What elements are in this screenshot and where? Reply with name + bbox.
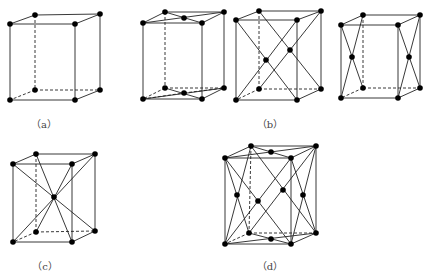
corner-atom: [313, 143, 319, 149]
corner-atom: [199, 96, 205, 102]
corner-atom: [221, 85, 227, 91]
corner-atom: [288, 241, 294, 247]
corner-atom: [97, 11, 103, 17]
corner-atom: [222, 155, 228, 161]
center-atom: [268, 149, 274, 155]
corner-atom: [92, 151, 98, 157]
corner-atom: [97, 87, 103, 93]
corner-atom: [313, 230, 319, 236]
corner-atom: [338, 22, 344, 28]
corner-atom: [360, 85, 366, 91]
corner-atom: [318, 8, 324, 14]
center-atom: [181, 90, 187, 96]
corner-atom: [248, 143, 254, 149]
cell-edge: [13, 154, 36, 164]
corner-atom: [162, 85, 168, 91]
hidden-edge: [10, 90, 35, 100]
center-atom: [300, 192, 306, 198]
cell-edge: [236, 11, 259, 20]
corner-atom: [417, 12, 423, 18]
corner-atom: [222, 241, 228, 247]
cell-edge: [72, 154, 95, 164]
hidden-edge: [341, 88, 363, 98]
corner-atom: [10, 239, 16, 245]
center-atom: [51, 194, 57, 200]
corner-atom: [233, 17, 239, 23]
figure-label-d: （d）: [257, 258, 283, 273]
corner-atom: [7, 21, 13, 27]
corner-atom: [338, 95, 344, 101]
cell-edge: [75, 90, 100, 100]
corner-atom: [72, 97, 78, 103]
center-atom: [280, 187, 286, 193]
corner-atom: [32, 87, 38, 93]
corner-atom: [10, 161, 16, 167]
hidden-edge: [236, 89, 259, 100]
corner-atom: [69, 239, 75, 245]
cell-edge: [35, 14, 100, 15]
corner-atom: [233, 97, 239, 103]
center-atom: [263, 57, 269, 63]
figure-label-b: （b）: [257, 116, 283, 131]
lattice-diagram: [0, 0, 428, 280]
corner-atom: [33, 151, 39, 157]
cell-edge: [341, 15, 363, 25]
corner-atom: [162, 9, 168, 15]
corner-atom: [140, 20, 146, 26]
cell-edge: [398, 15, 420, 25]
center-atom: [287, 47, 293, 53]
cell-edge: [297, 89, 321, 100]
cell-edge: [10, 15, 35, 24]
corner-atom: [246, 230, 252, 236]
figure-label-c: （c）: [32, 258, 58, 273]
cell-edge: [398, 88, 420, 98]
corner-atom: [72, 21, 78, 27]
center-atom: [406, 54, 412, 60]
figure-label-a: （a）: [31, 116, 57, 131]
cell-edge: [75, 14, 100, 24]
corner-atom: [417, 85, 423, 91]
corner-atom: [221, 9, 227, 15]
corner-atom: [69, 161, 75, 167]
corner-atom: [395, 95, 401, 101]
hidden-edge: [36, 231, 95, 232]
center-atom: [234, 192, 240, 198]
corner-atom: [32, 12, 38, 18]
center-atom: [349, 54, 355, 60]
corner-atom: [288, 155, 294, 161]
hidden-edge: [13, 232, 36, 242]
corner-atom: [360, 12, 366, 18]
corner-atom: [294, 17, 300, 23]
corner-atom: [7, 97, 13, 103]
corner-atom: [140, 96, 146, 102]
corner-atom: [199, 20, 205, 26]
corner-atom: [33, 229, 39, 235]
corner-atom: [256, 8, 262, 14]
center-atom: [268, 236, 274, 242]
center-atom: [255, 198, 261, 204]
center-atom: [181, 15, 187, 21]
corner-atom: [318, 86, 324, 92]
corner-atom: [294, 97, 300, 103]
corner-atom: [256, 86, 262, 92]
cell-edge: [72, 231, 95, 242]
corner-atom: [92, 228, 98, 234]
corner-atom: [395, 22, 401, 28]
